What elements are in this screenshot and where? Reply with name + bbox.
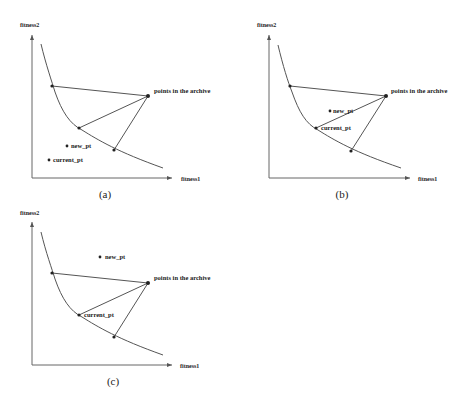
y-axis-label: fitness2 — [20, 22, 39, 28]
new-pt-label: new_pt — [105, 253, 126, 260]
y-axis-label: fitness2 — [20, 210, 39, 216]
archive-point — [77, 126, 80, 129]
edge — [52, 86, 148, 96]
archive-point — [50, 271, 53, 274]
current-pt-label: current_pt — [321, 124, 352, 131]
panel-b: fitness2 fitness1 points in the archive … — [257, 22, 448, 201]
new-pt-dot — [66, 145, 69, 148]
x-axis-label: fitness1 — [181, 176, 200, 182]
current-pt-dot — [77, 313, 80, 316]
edge — [52, 273, 148, 283]
current-pt-dot — [48, 159, 51, 162]
panel-c: fitness2 fitness1 points in the archive … — [20, 210, 211, 388]
edge — [290, 86, 386, 96]
archive-label: points in the archive — [154, 274, 211, 281]
current-pt-dot — [314, 126, 317, 129]
archive-point — [288, 84, 291, 87]
new-pt-label: new_pt — [333, 107, 354, 114]
caption-c: (c) — [107, 375, 120, 388]
archive-point — [112, 148, 115, 151]
archive-label: points in the archive — [391, 87, 448, 94]
pareto-front-curve — [41, 232, 163, 355]
y-axis-label: fitness2 — [257, 22, 276, 28]
new-pt-dot — [329, 110, 332, 113]
archive-label: points in the archive — [154, 87, 211, 94]
panel-a: fitness2 fitness1 points in the archive … — [20, 22, 211, 201]
x-axis-label: fitness1 — [180, 363, 199, 369]
current-pt-label: current_pt — [53, 156, 84, 163]
archive-point — [349, 149, 352, 152]
caption-a: (a) — [99, 188, 112, 201]
current-pt-label: current_pt — [84, 311, 115, 318]
archive-point — [146, 281, 150, 285]
x-axis-label: fitness1 — [418, 176, 437, 182]
archive-point — [146, 94, 150, 98]
archive-point — [384, 94, 388, 98]
new-pt-dot — [99, 256, 102, 259]
pareto-front-curve — [41, 44, 163, 168]
archive-point — [112, 335, 115, 338]
caption-b: (b) — [336, 188, 349, 201]
archive-point — [50, 84, 53, 87]
new-pt-label: new_pt — [71, 142, 92, 149]
